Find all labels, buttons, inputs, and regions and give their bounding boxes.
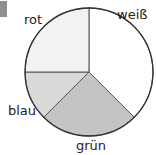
label-gruen: grün: [76, 139, 106, 152]
label-blau: blau: [8, 104, 36, 117]
label-weiss: weiß: [117, 8, 147, 21]
label-rot: rot: [24, 13, 42, 26]
